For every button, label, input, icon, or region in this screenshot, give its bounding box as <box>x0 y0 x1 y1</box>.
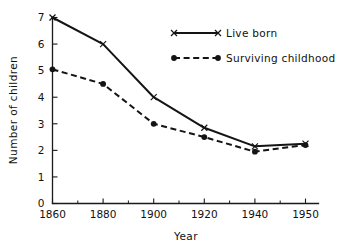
series-surviving-childhood <box>50 66 309 154</box>
y-axis-ticks <box>53 18 58 204</box>
x-tick-label: 1940 <box>242 208 269 220</box>
y-tick-label: 4 <box>38 91 45 103</box>
y-tick-label: 2 <box>38 144 45 156</box>
x-tick-label: 1860 <box>39 208 66 220</box>
legend-entry-surviving-childhood: Surviving childhood <box>171 52 335 64</box>
y-tick-label: 7 <box>38 11 45 23</box>
line-chart: 01234567 186018801900192019401950 Live b… <box>0 0 342 252</box>
x-axis-tick-labels: 186018801900192019401950 <box>39 208 319 220</box>
data-point-marker-dot <box>303 142 309 148</box>
y-tick-label: 5 <box>38 64 45 76</box>
series-line <box>53 69 306 151</box>
x-tick-label: 1880 <box>90 208 117 220</box>
x-tick-label: 1950 <box>292 208 319 220</box>
y-tick-label: 6 <box>38 38 45 50</box>
data-point-marker-dot <box>215 55 221 61</box>
data-point-marker-dot <box>100 81 106 87</box>
legend-label: Surviving childhood <box>226 52 335 64</box>
chart-legend: Live bornSurviving childhood <box>171 27 335 64</box>
chart-figure: 01234567 186018801900192019401950 Live b… <box>0 0 342 252</box>
y-axis-tick-labels: 01234567 <box>38 11 45 209</box>
data-point-marker-dot <box>201 134 207 140</box>
y-tick-label: 1 <box>38 171 45 183</box>
y-axis-label: Number of children <box>7 56 19 164</box>
data-point-marker-dot <box>50 66 56 72</box>
data-point-marker-dot <box>171 55 177 61</box>
legend-label: Live born <box>226 27 277 39</box>
x-axis-label: Year <box>173 230 198 242</box>
y-tick-label: 3 <box>38 118 45 130</box>
x-tick-label: 1920 <box>191 208 218 220</box>
chart-axes <box>53 18 319 204</box>
data-point-marker-x <box>151 94 157 100</box>
data-point-marker-dot <box>151 121 157 127</box>
x-tick-label: 1900 <box>140 208 167 220</box>
data-point-marker-dot <box>252 149 258 155</box>
legend-entry-live-born: Live born <box>171 27 277 39</box>
